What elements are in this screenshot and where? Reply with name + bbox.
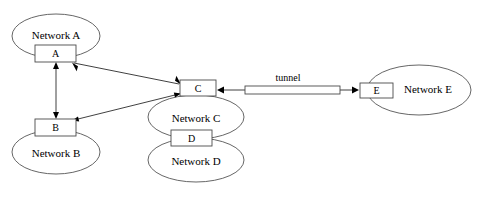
network-d-label: Network D — [171, 155, 220, 167]
network-ellipse-group — [12, 14, 471, 182]
link-c-tunnel-arrowhead — [217, 87, 224, 94]
link-tunnel-e-arrowhead — [352, 87, 359, 94]
network-a-label: Network A — [32, 29, 81, 41]
diagram-svg: tunnel A B C D E Network A Network B Net… — [0, 0, 481, 198]
tunnel-group: tunnel — [245, 72, 340, 94]
network-diagram-canvas: tunnel A B C D E Network A Network B Net… — [0, 0, 481, 198]
router-e-label: E — [373, 85, 379, 96]
network-e-label: Network E — [404, 83, 452, 95]
router-b-label: B — [52, 122, 59, 133]
link-a-b-arrowhead-bottom — [53, 112, 59, 119]
network-c-label: Network C — [172, 112, 221, 124]
link-a-c-line — [74, 63, 179, 84]
tunnel-rect — [245, 86, 340, 94]
router-a-label: A — [52, 48, 60, 59]
link-a-b-arrowhead-top — [53, 62, 59, 69]
router-d-label: D — [188, 133, 195, 144]
router-c-label: C — [195, 83, 202, 94]
tunnel-label: tunnel — [276, 72, 301, 83]
network-b-label: Network B — [32, 147, 81, 159]
